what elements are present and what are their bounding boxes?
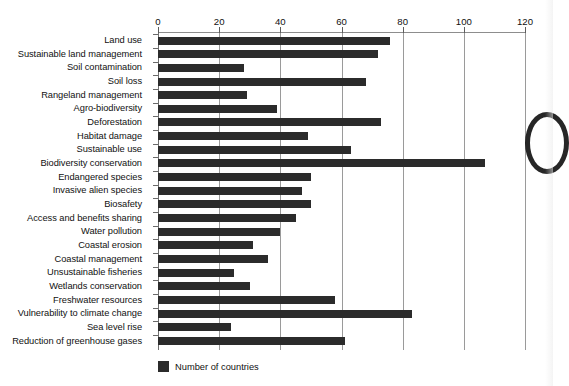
gridline-120: [525, 33, 526, 350]
category-tick-6: [153, 116, 158, 117]
category-tick-19: [153, 294, 158, 295]
x-tick-label-40: 40: [275, 16, 286, 27]
category-tick-2: [153, 62, 158, 63]
bar-habitat-damage: [158, 132, 308, 140]
category-tick-8: [153, 144, 158, 145]
legend-swatch-number-of-countries: [158, 361, 169, 372]
category-tick-3: [153, 75, 158, 76]
category-tick-1: [153, 48, 158, 49]
x-tick-label-20: 20: [214, 16, 225, 27]
bar-sustainable-land-management: [158, 50, 378, 58]
bar-land-use: [158, 37, 390, 45]
category-tick-5: [153, 103, 158, 104]
bar-sea-level-rise: [158, 323, 231, 331]
category-tick-18: [153, 280, 158, 281]
bar-wetlands-conservation: [158, 282, 250, 290]
category-tick-15: [153, 239, 158, 240]
bar-sustainable-use: [158, 146, 351, 154]
bar-rangeland-management: [158, 91, 247, 99]
category-tick-22: [153, 335, 158, 336]
category-tick-20: [153, 308, 158, 309]
bar-invasive-alien-species: [158, 187, 302, 195]
gridline-80: [403, 33, 404, 350]
category-tick-17: [153, 267, 158, 268]
x-tick-label-80: 80: [397, 16, 408, 27]
category-tick-11: [153, 185, 158, 186]
category-axis-labels: Land useSustainable land managementSoil …: [0, 33, 148, 350]
bar-coastal-erosion: [158, 241, 253, 249]
bar-reduction-of-greenhouse-gases: [158, 337, 345, 345]
bar-biodiversity-conservation: [158, 159, 485, 167]
bar-coastal-management: [158, 255, 268, 263]
bar-unsustainable-fisheries: [158, 269, 234, 277]
legend-label-number-of-countries: Number of countries: [175, 362, 259, 372]
bar-access-and-benefits-sharing: [158, 214, 296, 222]
category-tick-16: [153, 253, 158, 254]
x-tick-label-60: 60: [336, 16, 347, 27]
category-tick-9: [153, 157, 158, 158]
bar-deforestation: [158, 118, 381, 126]
page-edge-shadow: [545, 0, 553, 386]
bar-freshwater-resources: [158, 296, 335, 304]
category-tick-4: [153, 89, 158, 90]
bar-soil-loss: [158, 78, 366, 86]
category-tick-14: [153, 226, 158, 227]
bar-endangered-species: [158, 173, 311, 181]
legend: Number of countries: [158, 361, 259, 372]
bar-agro-biodiversity: [158, 105, 277, 113]
bar-soil-contamination: [158, 64, 244, 72]
x-tick-label-0: 0: [155, 16, 160, 27]
category-label-reduction-of-greenhouse-gases: Reduction of greenhouse gases: [12, 334, 142, 349]
x-tick-label-120: 120: [517, 16, 533, 27]
bar-biosafety: [158, 200, 311, 208]
plot-area: [158, 33, 525, 350]
category-tick-13: [153, 212, 158, 213]
category-tick-0: [153, 34, 158, 35]
x-tick-label-100: 100: [456, 16, 472, 27]
gridline-100: [464, 33, 465, 350]
bar-vulnerability-to-climate-change: [158, 310, 412, 318]
bar-water-pollution: [158, 228, 280, 236]
category-tick-21: [153, 321, 158, 322]
category-tick-12: [153, 198, 158, 199]
category-tick-7: [153, 130, 158, 131]
category-tick-10: [153, 171, 158, 172]
